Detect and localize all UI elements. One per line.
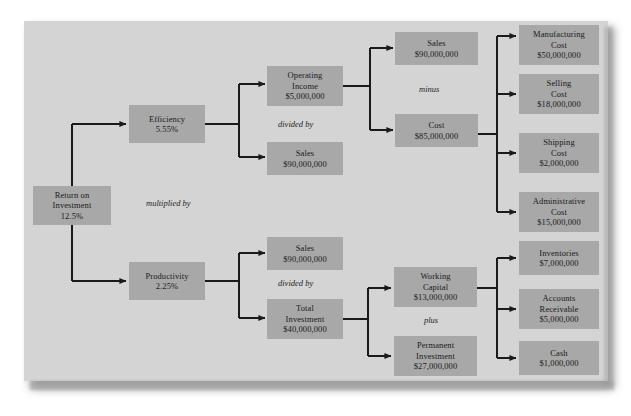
node-line: $13,000,000 bbox=[414, 292, 458, 303]
node-line: Permanent bbox=[417, 340, 454, 351]
operator-divided-by-bottom: divided by bbox=[278, 278, 313, 288]
node-line: Cost bbox=[551, 89, 567, 100]
node-shipping-cost[interactable]: Shipping Cost $2,000,000 bbox=[519, 133, 599, 173]
node-line: Investment bbox=[286, 314, 325, 325]
operator-minus: minus bbox=[419, 84, 439, 94]
node-line: $18,000,000 bbox=[537, 99, 581, 110]
node-line: 5.55% bbox=[156, 124, 178, 135]
node-line: $90,000,000 bbox=[283, 254, 327, 265]
node-line: Income bbox=[292, 81, 318, 92]
node-line: $40,000,000 bbox=[283, 324, 327, 335]
node-line: $90,000,000 bbox=[415, 49, 459, 60]
node-productivity[interactable]: Productivity 2.25% bbox=[129, 262, 205, 300]
node-line: $85,000,000 bbox=[415, 131, 459, 142]
node-cost[interactable]: Cost $85,000,000 bbox=[395, 114, 478, 147]
node-line: $15,000,000 bbox=[537, 217, 581, 228]
operator-multiplied-by: multiplied by bbox=[146, 198, 191, 208]
node-administrative-cost[interactable]: Administrative Cost $15,000,000 bbox=[519, 192, 599, 232]
node-line: $5,000,000 bbox=[539, 314, 578, 325]
node-line: $7,000,000 bbox=[539, 258, 578, 269]
node-line: Sales bbox=[427, 38, 445, 49]
node-operating-income[interactable]: Operating Income $5,000,000 bbox=[267, 66, 343, 106]
node-sales-top[interactable]: Sales $90,000,000 bbox=[395, 32, 478, 65]
node-line: Manufacturing bbox=[533, 29, 585, 40]
node-line: Cost bbox=[551, 40, 567, 51]
node-inventories[interactable]: Inventories $7,000,000 bbox=[519, 241, 599, 275]
node-line: Cost bbox=[551, 207, 567, 218]
node-line: Working bbox=[420, 271, 450, 282]
node-working-capital[interactable]: Working Capital $13,000,000 bbox=[394, 267, 477, 307]
node-line: Inventories bbox=[539, 248, 578, 259]
node-line: Shipping bbox=[543, 137, 575, 148]
node-line: Sales bbox=[296, 148, 314, 159]
node-line: 2.25% bbox=[156, 281, 178, 292]
node-line: Productivity bbox=[145, 271, 188, 282]
node-line: Accounts bbox=[543, 293, 576, 304]
node-manufacturing-cost[interactable]: Manufacturing Cost $50,000,000 bbox=[519, 25, 599, 65]
node-total-investment[interactable]: Total Investment $40,000,000 bbox=[267, 299, 343, 339]
node-line: Operating bbox=[288, 70, 323, 81]
node-efficiency[interactable]: Efficiency 5.55% bbox=[129, 105, 205, 143]
operator-plus: plus bbox=[424, 315, 438, 325]
node-sales-productivity[interactable]: Sales $90,000,000 bbox=[267, 237, 343, 270]
node-line: Return on bbox=[55, 190, 90, 201]
node-return-on-investment[interactable]: Return on Investment 12.5% bbox=[33, 186, 111, 225]
node-line: $27,000,000 bbox=[414, 361, 458, 372]
node-line: Investment bbox=[416, 351, 455, 362]
node-line: Cash bbox=[550, 348, 567, 359]
node-line: Administrative bbox=[533, 196, 585, 207]
node-line: Efficiency bbox=[149, 114, 185, 125]
node-line: Investment bbox=[53, 200, 92, 211]
node-line: Cost bbox=[551, 148, 567, 159]
node-line: $5,000,000 bbox=[285, 91, 324, 102]
node-line: Total bbox=[296, 303, 314, 314]
node-sales-efficiency[interactable]: Sales $90,000,000 bbox=[267, 142, 343, 175]
node-line: Receivable bbox=[540, 304, 579, 315]
node-line: Sales bbox=[296, 243, 314, 254]
node-line: 12.5% bbox=[61, 211, 83, 222]
node-selling-cost[interactable]: Selling Cost $18,000,000 bbox=[519, 74, 599, 114]
node-cash[interactable]: Cash $1,000,000 bbox=[519, 341, 599, 375]
diagram-canvas: Return on Investment 12.5% Efficiency 5.… bbox=[0, 0, 631, 416]
operator-divided-by-top: divided by bbox=[278, 119, 313, 129]
node-line: $50,000,000 bbox=[537, 50, 581, 61]
node-line: $1,000,000 bbox=[539, 358, 578, 369]
node-line: $2,000,000 bbox=[539, 158, 578, 169]
node-line: Cost bbox=[429, 120, 445, 131]
node-accounts-receivable[interactable]: Accounts Receivable $5,000,000 bbox=[519, 289, 599, 329]
node-permanent-investment[interactable]: Permanent Investment $27,000,000 bbox=[394, 336, 477, 376]
node-line: Capital bbox=[423, 282, 448, 293]
node-line: Selling bbox=[547, 78, 572, 89]
node-line: $90,000,000 bbox=[283, 159, 327, 170]
